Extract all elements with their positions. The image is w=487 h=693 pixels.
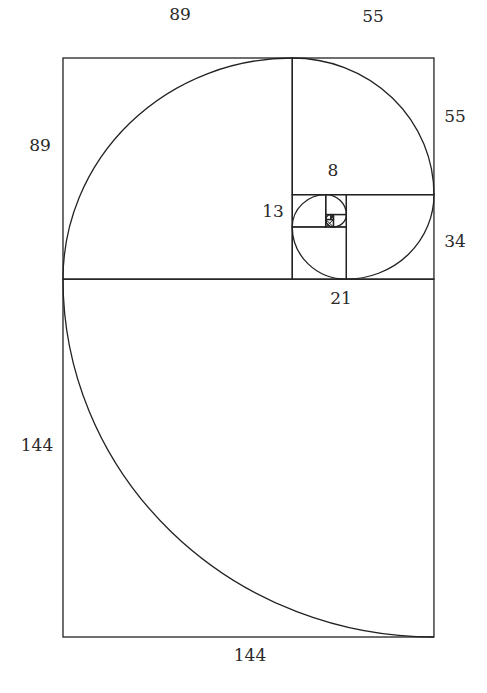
square-21	[292, 227, 346, 279]
label-right-34: 34	[444, 231, 466, 251]
label-left-89: 89	[29, 135, 51, 155]
label-top-89: 89	[169, 4, 191, 24]
square-1	[331, 217, 334, 219]
label-inner-13: 13	[262, 201, 284, 221]
square-55	[292, 58, 434, 195]
label-bottom-144: 144	[234, 645, 266, 665]
label-top-55: 55	[362, 6, 384, 26]
square-89	[63, 58, 292, 279]
fibonacci-spiral-diagram	[0, 0, 487, 693]
squares-grid	[63, 58, 434, 637]
label-left-144: 144	[21, 435, 53, 455]
golden-spiral-curve	[63, 58, 434, 637]
label-right-55: 55	[444, 106, 466, 126]
square-144	[63, 279, 434, 637]
label-bottom-21: 21	[330, 288, 352, 308]
label-inner-8: 8	[328, 160, 339, 180]
square-34	[346, 195, 434, 279]
